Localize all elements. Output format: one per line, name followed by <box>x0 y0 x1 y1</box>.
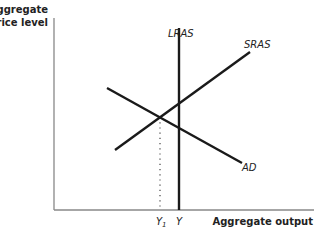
y-axis-title-line1: Aggregate <box>0 4 48 15</box>
ad-curve <box>107 88 242 163</box>
ad-label: AD <box>241 162 257 173</box>
y-axis-title-line2: price level <box>0 17 48 28</box>
y1-tick-subscript: 1 <box>162 221 166 228</box>
lras-label: LRAS <box>168 28 194 39</box>
x-axis-title: Aggregate output <box>212 216 313 227</box>
sras-label: SRAS <box>244 39 271 50</box>
ad-as-diagram: Aggregate price level Aggregate output L… <box>0 0 327 228</box>
y-tick-label: Y <box>176 216 183 227</box>
y1-tick-label: Y1 <box>156 216 167 228</box>
sras-curve <box>115 52 250 150</box>
